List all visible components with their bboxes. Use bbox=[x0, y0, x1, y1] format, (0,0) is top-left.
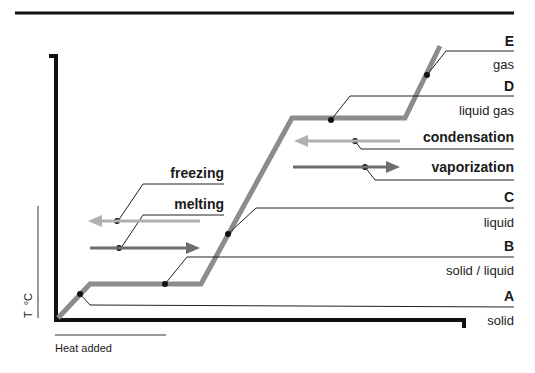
heating-curve-diagram: E gas D liquid gas C liquid B solid / li… bbox=[0, 0, 535, 373]
vaporization-label: vaporization bbox=[432, 159, 514, 175]
x-axis-label: Heat added bbox=[55, 342, 112, 354]
point-E-phase: gas bbox=[493, 57, 514, 72]
freezing-label: freezing bbox=[170, 165, 224, 181]
point-D-letter: D bbox=[504, 78, 514, 94]
point-A-letter: A bbox=[504, 288, 514, 304]
point-E-letter: E bbox=[505, 33, 514, 49]
y-axis bbox=[49, 56, 130, 320]
point-B-letter: B bbox=[504, 238, 514, 254]
y-axis-label: T °C bbox=[22, 293, 34, 318]
process-arrows bbox=[88, 135, 400, 254]
point-D-phase: liquid gas bbox=[459, 103, 514, 118]
point-C-letter: C bbox=[504, 189, 514, 205]
heating-curve bbox=[58, 46, 440, 318]
point-B-phase: solid / liquid bbox=[446, 263, 514, 278]
point-C-phase: liquid bbox=[484, 215, 514, 230]
melting-label: melting bbox=[174, 196, 224, 212]
x-axis bbox=[56, 320, 464, 328]
point-A-phase: solid bbox=[487, 313, 514, 328]
condensation-label: condensation bbox=[423, 129, 514, 145]
